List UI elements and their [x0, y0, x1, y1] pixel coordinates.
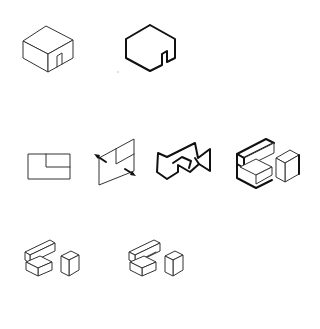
skewed-plane-drawing [94, 139, 136, 185]
hexagon-outline-drawing [126, 25, 175, 71]
plan-rectangle-drawing [28, 154, 70, 179]
block-composition-b-drawing [129, 240, 183, 276]
stray-dot [117, 71, 119, 73]
diagram-canvas [0, 0, 320, 329]
interlocking-outline-drawing [157, 143, 210, 179]
cube-with-door-drawing [23, 26, 73, 72]
block-composition-a-drawing [25, 240, 79, 276]
block-composition-bold-drawing [237, 139, 299, 188]
